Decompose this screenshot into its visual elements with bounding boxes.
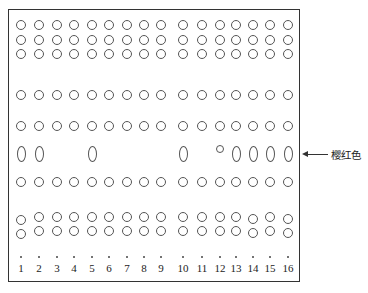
band-circle (139, 212, 149, 222)
band-circle (87, 212, 97, 222)
band-circle (16, 229, 26, 239)
lane-label: 1 (11, 262, 31, 274)
band-circle (156, 35, 166, 45)
band-circle (52, 90, 62, 100)
band-circle (156, 49, 166, 59)
band-circle (283, 177, 293, 187)
band-circle (265, 49, 275, 59)
origin-dot (143, 256, 145, 258)
lane-label: 2 (29, 262, 49, 274)
band-circle (215, 20, 225, 30)
band-circle (69, 212, 79, 222)
band-circle (104, 121, 114, 131)
band-circle (231, 20, 241, 30)
band-circle (34, 177, 44, 187)
lane-label: 11 (192, 262, 212, 274)
band-circle (87, 35, 97, 45)
band-circle (197, 212, 207, 222)
band-circle (248, 214, 258, 224)
band-circle (139, 20, 149, 30)
band-circle (231, 226, 241, 236)
band-circle (87, 49, 97, 59)
band-circle (231, 177, 241, 187)
band-circle (104, 212, 114, 222)
band-circle (156, 177, 166, 187)
band-circle (197, 121, 207, 131)
band-circle (156, 90, 166, 100)
origin-dot (91, 256, 93, 258)
band-circle (139, 121, 149, 131)
band-oval (17, 146, 26, 162)
lane-label: 4 (64, 262, 84, 274)
band-circle (52, 49, 62, 59)
band-circle (178, 212, 188, 222)
band-circle (248, 177, 258, 187)
band-circle (87, 121, 97, 131)
band-circle (122, 212, 132, 222)
band-circle (87, 177, 97, 187)
origin-dot (235, 256, 237, 258)
band-circle (215, 212, 225, 222)
band-circle (16, 215, 26, 225)
band-circle (16, 35, 26, 45)
band-circle (104, 20, 114, 30)
band-circle (16, 121, 26, 131)
band-circle (265, 90, 275, 100)
band-circle (69, 20, 79, 30)
band-circle (283, 35, 293, 45)
band-circle (178, 121, 188, 131)
band-circle (104, 226, 114, 236)
band-oval (88, 146, 97, 162)
band-circle (69, 121, 79, 131)
band-circle (231, 121, 241, 131)
band-small-circle (216, 145, 224, 153)
band-circle (231, 35, 241, 45)
gel-diagram: 12345678910111213141516 樱红色 (0, 0, 368, 293)
band-circle (156, 226, 166, 236)
band-circle (178, 49, 188, 59)
band-circle (139, 49, 149, 59)
band-circle (215, 226, 225, 236)
origin-dot (108, 256, 110, 258)
band-circle (34, 212, 44, 222)
band-circle (215, 49, 225, 59)
band-circle (178, 20, 188, 30)
origin-dot (160, 256, 162, 258)
band-circle (283, 121, 293, 131)
origin-dot (219, 256, 221, 258)
band-circle (139, 35, 149, 45)
band-circle (156, 212, 166, 222)
band-circle (122, 49, 132, 59)
band-circle (69, 177, 79, 187)
band-circle (52, 177, 62, 187)
lane-label: 15 (260, 262, 280, 274)
band-circle (69, 226, 79, 236)
band-circle (231, 90, 241, 100)
band-circle (34, 121, 44, 131)
band-circle (16, 49, 26, 59)
band-circle (156, 121, 166, 131)
band-circle (265, 212, 275, 222)
band-circle (265, 20, 275, 30)
band-circle (34, 226, 44, 236)
band-circle (34, 35, 44, 45)
band-circle (248, 20, 258, 30)
band-circle (69, 49, 79, 59)
band-circle (197, 35, 207, 45)
band-circle (122, 20, 132, 30)
band-circle (139, 177, 149, 187)
band-circle (104, 90, 114, 100)
band-circle (69, 90, 79, 100)
origin-dot (126, 256, 128, 258)
band-circle (52, 20, 62, 30)
band-circle (16, 177, 26, 187)
origin-dot (73, 256, 75, 258)
band-circle (178, 35, 188, 45)
band-circle (178, 226, 188, 236)
band-circle (231, 212, 241, 222)
band-circle (215, 177, 225, 187)
band-circle (248, 90, 258, 100)
band-circle (104, 49, 114, 59)
band-circle (283, 228, 293, 238)
band-circle (178, 90, 188, 100)
